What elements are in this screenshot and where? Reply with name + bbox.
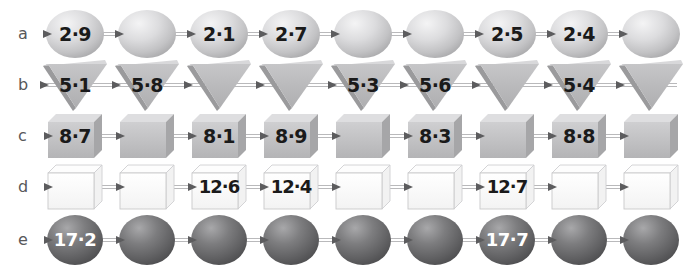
chain-node <box>258 58 324 112</box>
sphere-dark-icon <box>334 214 396 264</box>
chain-row-b: b 5·15·85·35·65·4 <box>0 59 681 111</box>
arrowhead-icon <box>403 30 412 38</box>
cube-icon <box>46 112 108 162</box>
chain-node: 17·7 <box>478 214 536 266</box>
chain-node <box>618 58 684 112</box>
cube-white-icon <box>118 163 180 213</box>
chain-node: 2·7 <box>261 9 321 59</box>
chain-node <box>406 163 464 211</box>
chain-node: 2·1 <box>189 9 249 59</box>
chain-node: 12·7 <box>478 163 536 211</box>
arrowhead-icon <box>188 236 197 244</box>
sphere-icon <box>405 9 467 59</box>
chain-node: 5·6 <box>402 58 468 112</box>
chain-node <box>622 163 680 211</box>
cube-white-icon <box>478 163 540 213</box>
arrowhead-icon <box>44 132 53 140</box>
triangle-down-icon <box>114 58 176 108</box>
chain-node <box>190 214 248 266</box>
cube-white-icon <box>406 163 468 213</box>
arrowhead-icon <box>260 236 269 244</box>
chain-node <box>550 214 608 266</box>
cube-white-icon <box>190 163 252 213</box>
chain-node <box>46 163 104 211</box>
chain-node <box>118 214 176 266</box>
chain-row-e: e 17·217·7 <box>0 214 681 266</box>
arrowhead-icon <box>44 183 53 191</box>
triangle-down-icon <box>546 58 608 108</box>
cube-icon <box>550 112 612 162</box>
arrowhead-icon <box>260 183 269 191</box>
chain-node: 17·2 <box>46 214 104 266</box>
arrowhead-icon <box>620 183 629 191</box>
chain-node: 8·3 <box>406 112 464 160</box>
sphere-icon <box>117 9 179 59</box>
arrowhead-icon <box>476 183 485 191</box>
arrowhead-icon <box>548 236 557 244</box>
cube-icon <box>478 112 540 162</box>
chain-node: 8·9 <box>262 112 320 160</box>
sphere-icon <box>621 9 683 59</box>
cube-icon <box>262 112 324 162</box>
chain-node: 2·5 <box>477 9 537 59</box>
row-label-e: e <box>18 232 28 248</box>
arrowhead-icon <box>188 132 197 140</box>
sphere-dark-icon <box>550 214 612 264</box>
arrowhead-icon <box>476 132 485 140</box>
arrowhead-icon <box>332 183 341 191</box>
arrowhead-icon <box>332 132 341 140</box>
arrowhead-icon <box>331 30 340 38</box>
cube-icon <box>406 112 468 162</box>
arrowhead-icon <box>548 183 557 191</box>
arrowhead-icon <box>328 81 337 89</box>
chain-node <box>334 112 392 160</box>
chain-node <box>262 214 320 266</box>
chain-node <box>474 58 540 112</box>
arrowhead-icon <box>472 81 481 89</box>
sphere-dark-icon <box>118 214 180 264</box>
arrowhead-icon <box>475 30 484 38</box>
arrowhead-icon <box>616 81 625 89</box>
chain-node <box>621 9 681 59</box>
cut-off-row-remnant <box>0 0 681 7</box>
chain-node <box>550 163 608 211</box>
arrowhead-icon <box>404 236 413 244</box>
chain-node: 2·4 <box>549 9 609 59</box>
arrowhead-icon <box>404 183 413 191</box>
chain-node: 8·7 <box>46 112 104 160</box>
sphere-icon <box>333 9 395 59</box>
sphere-dark-icon <box>262 214 324 264</box>
arrowhead-icon <box>43 30 52 38</box>
arrowhead-icon <box>188 183 197 191</box>
row-label-b: b <box>18 77 28 93</box>
chain-node: 5·3 <box>330 58 396 112</box>
sphere-icon <box>189 9 251 59</box>
cube-icon <box>118 112 180 162</box>
chain-node <box>334 163 392 211</box>
chain-node <box>117 9 177 59</box>
triangle-down-icon <box>186 58 248 108</box>
chain-row-a: a 2·92·12·72·52·4 <box>0 8 681 60</box>
chain-node: 5·8 <box>114 58 180 112</box>
sphere-dark-icon <box>622 214 684 264</box>
arrowhead-icon <box>184 81 193 89</box>
arrowhead-icon <box>476 236 485 244</box>
arrowhead-icon <box>400 81 409 89</box>
chain-node: 2·9 <box>45 9 105 59</box>
arrowhead-icon <box>260 132 269 140</box>
chain-node: 12·4 <box>262 163 320 211</box>
chain-node: 8·1 <box>190 112 248 160</box>
cube-white-icon <box>46 163 108 213</box>
arrowhead-icon <box>620 236 629 244</box>
arrowhead-icon <box>332 236 341 244</box>
triangle-down-icon <box>474 58 536 108</box>
arrowhead-icon <box>115 30 124 38</box>
chain-node <box>478 112 536 160</box>
cube-white-icon <box>622 163 684 213</box>
chain-node: 8·8 <box>550 112 608 160</box>
chain-row-c: c 8·78·18·98·38·8 <box>0 110 681 162</box>
arrowhead-icon <box>256 81 265 89</box>
chain-node <box>622 214 680 266</box>
chain-node: 5·4 <box>546 58 612 112</box>
